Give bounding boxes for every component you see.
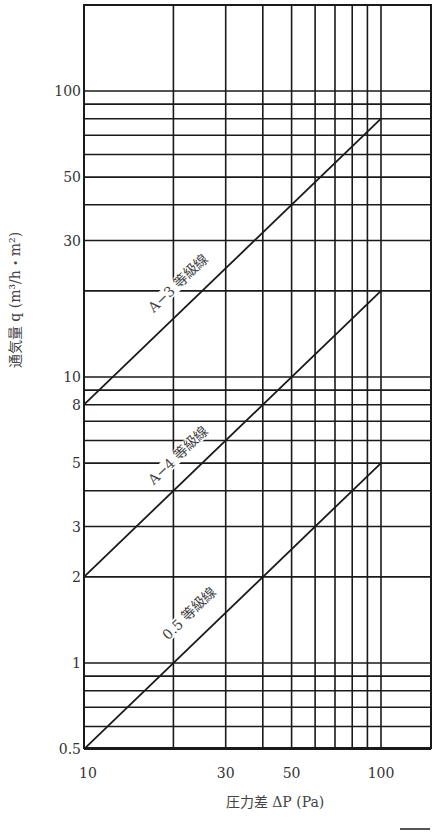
x-tick-label: 30 <box>217 765 235 781</box>
y-tick-label: 0.5 <box>59 741 81 757</box>
grade-lines <box>84 119 381 749</box>
y-axis-ticks: 0.512358103050100 <box>54 83 81 757</box>
y-axis-label: 通気量 q (m³/h・m²) <box>7 232 23 368</box>
x-tick-label: 50 <box>283 765 301 781</box>
airflow-grade-chart: A−3 等級線A−4 等級線0.5 等級線 0.512358103050100 … <box>0 0 434 834</box>
grade-line-label: A−3 等級線 <box>144 250 211 316</box>
y-tick-label: 2 <box>72 569 81 585</box>
x-axis-label: 圧力差 ΔP (Pa) <box>226 794 325 810</box>
y-tick-label: 5 <box>72 455 81 471</box>
gridlines <box>84 5 431 749</box>
figure-caption-fragment <box>400 828 430 830</box>
y-tick-label: 30 <box>63 233 81 249</box>
x-axis-ticks: 103050100 <box>79 765 394 781</box>
grade-line-1 <box>84 291 381 577</box>
y-tick-label: 3 <box>72 519 81 535</box>
y-tick-label: 50 <box>63 169 81 185</box>
grade-line-labels: A−3 等級線A−4 等級線0.5 等級線 <box>143 250 220 644</box>
x-tick-label: 10 <box>79 765 97 781</box>
grade-line-label: A−4 等級線 <box>144 423 211 489</box>
y-tick-label: 8 <box>72 397 81 413</box>
grade-line-label: 0.5 等級線 <box>159 584 220 643</box>
grade-line-0 <box>84 119 381 405</box>
y-tick-label: 100 <box>54 83 81 99</box>
grade-line-2 <box>84 463 381 749</box>
x-tick-label: 100 <box>368 765 395 781</box>
y-tick-label: 10 <box>63 369 81 385</box>
y-tick-label: 1 <box>72 655 81 671</box>
